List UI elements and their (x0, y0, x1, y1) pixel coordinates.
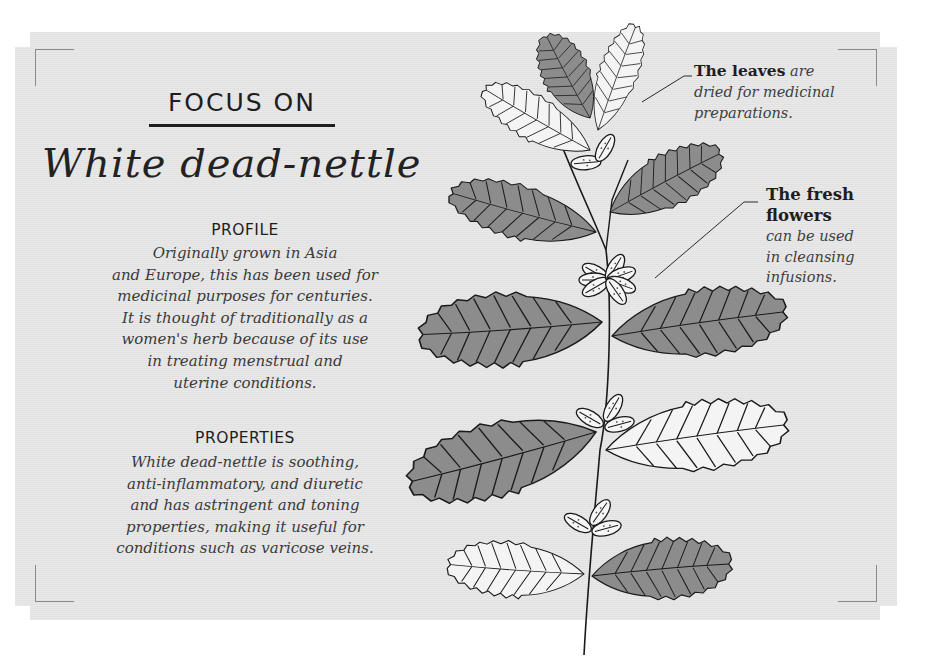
flower-bud (591, 131, 618, 164)
leaf-bottom-right-dark (589, 532, 734, 607)
leaf-upper-right-dark (597, 128, 734, 236)
leaf-lower-right-light (601, 388, 793, 485)
leaf-lower-left-dark (398, 395, 606, 520)
leaf-middle-left-dark (416, 285, 604, 374)
leader-line-leaves (642, 76, 692, 102)
flower-pair (561, 496, 622, 539)
leaf-bottom-left-light (445, 536, 585, 603)
leaf-upper-left-dark (443, 167, 603, 260)
flower-whorl (579, 251, 638, 307)
leader-line-flowers (655, 202, 758, 278)
plant-illustration (0, 0, 937, 660)
